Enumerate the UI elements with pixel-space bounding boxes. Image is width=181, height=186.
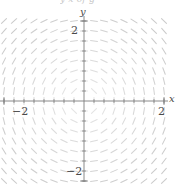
field-segment [32,68,36,74]
field-segment [121,159,127,163]
field-segment [142,138,146,144]
field-segment [11,19,16,24]
field-segment [41,169,47,172]
field-segment [153,118,155,125]
field-segment [143,78,145,85]
field-segment [111,159,117,162]
field-segment [101,139,107,142]
field-segment [61,160,68,162]
field-segment [32,49,37,54]
field-segment [42,139,47,144]
field-segment [101,150,108,153]
field-segment [13,78,15,85]
field-segment [12,48,16,54]
field-segment [51,30,57,33]
field-segment [121,19,127,22]
field-segment [101,69,107,73]
field-segment [51,20,58,22]
field-segment [91,50,98,51]
x-tick-label-positive-2: 2 [158,105,165,118]
field-segment [61,180,68,182]
field-segment [61,50,68,53]
field-segment [21,169,26,174]
field-segment [162,179,167,184]
field-segment [91,130,98,132]
field-segment [151,19,156,24]
field-segment [33,118,36,125]
field-segment [91,181,98,182]
field-segment [141,19,147,23]
field-segment [121,179,127,182]
field-segment [31,39,36,43]
field-segment [42,78,45,84]
field-segment [141,29,146,34]
field-segment [61,59,67,62]
field-segment [92,89,97,94]
field-segment [142,58,146,64]
field-segment [111,49,117,53]
field-segment [71,70,78,72]
field-segment [71,140,78,142]
axes-lines [0,16,168,182]
field-segment [3,78,5,85]
field-segment [33,78,36,85]
field-segment [91,70,98,72]
field-segment [2,179,7,184]
field-segment [51,149,57,153]
field-segment [31,19,37,23]
field-segment [152,158,157,163]
x-axis-label: x [169,93,175,104]
field-segment [3,68,5,75]
field-segment [12,148,16,154]
field-segment [163,78,165,85]
field-segment [2,48,6,54]
field-segment [31,169,37,173]
field-segment [72,89,77,94]
field-segment [71,150,78,151]
field-segment [52,129,57,134]
field-segment [41,159,47,163]
field-segment [142,148,146,153]
field-segment [153,68,156,74]
field-segment [71,130,78,132]
field-segment [61,20,68,22]
field-segment [51,49,57,53]
field-segment [21,179,27,183]
field-segment [143,88,144,95]
field-segment [154,88,155,95]
field-segment [121,29,127,32]
field-segment [22,138,26,144]
field-segment [152,58,155,64]
field-segment [53,88,55,95]
field-segment [22,48,26,53]
field-segment [111,149,117,153]
field-segment [123,108,125,115]
field-segment [33,88,34,95]
field-segment [111,30,117,33]
field-segment [61,139,67,142]
field-segment [121,149,126,153]
field-segment [162,48,166,54]
field-segment [23,78,25,85]
field-segment [101,160,108,162]
field-segment [132,128,136,134]
field-segment [151,179,156,184]
field-segment [163,68,165,75]
field-segment [112,69,117,74]
field-segment [152,38,157,43]
field-segment [72,109,77,114]
field-segment [102,119,107,124]
field-segment [162,168,167,173]
field-segment [11,179,16,184]
field-segment [32,138,36,143]
field-segment [91,40,98,41]
field-segment [121,169,127,172]
field-segment [154,108,155,115]
field-segment [41,49,46,53]
field-segment [152,29,157,34]
field-segment [142,48,146,53]
field-segment [133,78,136,85]
field-segment [12,158,17,163]
field-segment [142,68,145,74]
field-segment [153,78,155,85]
